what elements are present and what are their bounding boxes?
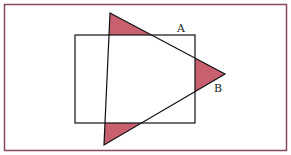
diagram: A B	[0, 0, 291, 155]
label-a: A	[176, 22, 186, 35]
label-b: B	[214, 82, 222, 95]
frame-border	[5, 5, 287, 151]
